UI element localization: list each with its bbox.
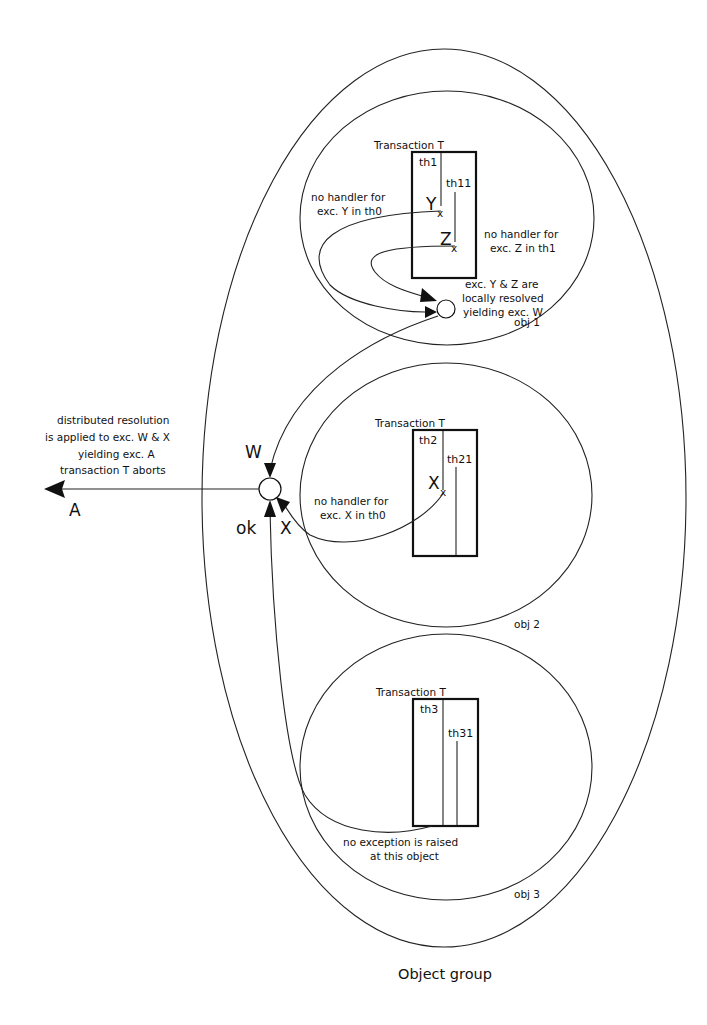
distributed-note-line1: distributed resolution xyxy=(57,414,169,426)
arrowhead-z xyxy=(420,288,437,302)
arrowhead-a xyxy=(44,480,65,498)
transaction-label-2: Transaction T xyxy=(374,417,445,429)
note-no-handler-x-line1: no handler for xyxy=(314,495,389,507)
note-local-resolution-line2: locally resolved xyxy=(462,292,544,304)
distributed-note-line2: is applied to exc. W & X xyxy=(45,431,170,443)
note-no-exception-line2: at this object xyxy=(370,850,439,862)
arrowhead-ok xyxy=(264,500,276,517)
object-3-boundary xyxy=(300,634,592,900)
note-no-handler-x-line2: exc. X in th0 xyxy=(320,509,386,521)
object-1: obj 1 Transaction T th1 th11 Y x Z x no … xyxy=(300,91,594,345)
object-2-label: obj 2 xyxy=(514,618,540,630)
exception-x-input-label: X xyxy=(280,518,292,538)
distributed-note-line3: yielding exc. A xyxy=(78,448,156,460)
object-group-label: Object group xyxy=(398,966,492,982)
thread-th21-label: th21 xyxy=(447,453,472,466)
local-resolution-node xyxy=(437,300,455,318)
arrow-z-to-local-node xyxy=(371,246,455,296)
exception-resolution-diagram: obj 1 Transaction T th1 th11 Y x Z x no … xyxy=(0,0,707,1025)
transaction-label-3: Transaction T xyxy=(375,686,446,698)
note-no-handler-z-line2: exc. Z in th1 xyxy=(490,242,556,254)
exception-w-label: W xyxy=(245,442,262,462)
arrowhead-w xyxy=(264,463,276,478)
distributed-resolution-node xyxy=(259,478,281,500)
thread-th31-label: th31 xyxy=(448,727,473,740)
exception-a-label: A xyxy=(69,500,81,520)
arrow-ok-to-central-node xyxy=(270,510,432,832)
thread-th11-label: th11 xyxy=(446,177,471,190)
thread-th2-label: th2 xyxy=(419,434,437,447)
ok-input-label: ok xyxy=(236,518,256,538)
object-2: obj 2 Transaction T th2 th21 X x no hand… xyxy=(276,363,592,630)
note-no-exception-line1: no exception is raised xyxy=(343,836,458,848)
exception-y-mark: x xyxy=(437,207,443,219)
distributed-note-line4: transaction T aborts xyxy=(60,464,166,476)
transaction-box-1 xyxy=(412,152,476,278)
transaction-label-1: Transaction T xyxy=(373,139,444,151)
arrowhead-y xyxy=(425,306,437,318)
thread-th3-label: th3 xyxy=(420,703,438,716)
exception-z-mark: x xyxy=(451,242,457,254)
note-local-resolution-line3: yielding exc. W xyxy=(463,306,544,318)
transaction-box-3 xyxy=(413,699,478,826)
note-no-handler-y-line1: no handler for xyxy=(311,191,386,203)
note-no-handler-z-line1: no handler for xyxy=(484,228,559,240)
exception-x-label: X xyxy=(428,473,440,493)
object-3: obj 3 Transaction T th3 th31 no exceptio… xyxy=(264,500,592,900)
note-local-resolution-line1: exc. Y & Z are xyxy=(465,278,539,290)
thread-th1-label: th1 xyxy=(419,156,437,169)
note-no-handler-y-line2: exc. Y in th0 xyxy=(317,205,382,217)
object-3-label: obj 3 xyxy=(514,888,540,900)
